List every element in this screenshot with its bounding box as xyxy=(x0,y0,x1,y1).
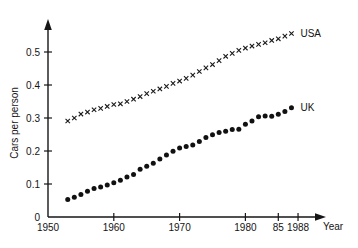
data-point xyxy=(282,109,287,114)
data-point xyxy=(177,146,182,151)
data-point xyxy=(118,102,122,106)
x-tick-label: 1988 xyxy=(287,222,310,233)
data-point xyxy=(171,149,176,154)
data-point xyxy=(138,167,143,172)
data-point xyxy=(190,143,195,148)
data-point xyxy=(157,156,162,161)
data-point xyxy=(98,106,102,110)
x-tick-label: 85 xyxy=(273,222,285,233)
data-point xyxy=(184,144,189,149)
data-point xyxy=(131,97,135,101)
data-point xyxy=(210,132,215,137)
data-point xyxy=(144,164,149,169)
y-tick-label: 0.1 xyxy=(26,179,40,190)
x-tick-label: 1980 xyxy=(234,222,257,233)
data-point xyxy=(151,161,156,166)
data-point xyxy=(204,66,208,70)
data-point xyxy=(158,87,162,91)
data-point xyxy=(65,197,70,202)
data-point xyxy=(85,110,89,114)
data-point xyxy=(92,108,96,112)
y-tick-label: 0.3 xyxy=(26,113,40,124)
data-point xyxy=(237,48,241,52)
data-point xyxy=(276,37,280,41)
data-point xyxy=(72,195,77,200)
data-point xyxy=(111,180,116,185)
series-usa-markers xyxy=(66,31,294,123)
x-tick-label: 1950 xyxy=(37,222,60,233)
x-axis-ticks: 1950196019701980851988 xyxy=(37,213,310,233)
data-point xyxy=(197,69,201,73)
data-point xyxy=(92,186,97,191)
y-tick-label: 0 xyxy=(34,212,40,223)
y-tick-label: 0.4 xyxy=(26,80,40,91)
series-label-usa: USA xyxy=(300,28,321,39)
series-label-uk: UK xyxy=(300,102,314,113)
data-point xyxy=(217,130,222,135)
data-point xyxy=(263,114,268,119)
data-point xyxy=(66,119,70,123)
cars-per-person-scatter-chart: 00.10.20.30.40.5 1950196019701980851988 … xyxy=(0,0,358,248)
data-point xyxy=(164,84,168,88)
x-axis-arrowhead xyxy=(315,213,326,221)
data-point xyxy=(230,51,234,55)
data-point xyxy=(243,46,247,50)
data-point xyxy=(85,189,90,194)
data-point xyxy=(223,54,227,58)
data-point xyxy=(105,182,110,187)
data-point xyxy=(118,178,123,183)
data-point xyxy=(78,192,83,197)
data-point xyxy=(191,73,195,77)
y-tick-label: 0.5 xyxy=(26,47,40,58)
data-series-group xyxy=(65,31,294,202)
data-point xyxy=(164,152,169,157)
data-point xyxy=(230,127,235,132)
chart-container: 00.10.20.30.40.5 1950196019701980851988 … xyxy=(0,0,358,248)
data-point xyxy=(243,122,248,127)
data-point xyxy=(79,112,83,116)
x-axis-title: Year xyxy=(323,221,344,232)
data-point xyxy=(249,118,254,123)
data-point xyxy=(250,44,254,48)
data-point xyxy=(145,91,149,95)
data-point xyxy=(131,172,136,177)
x-tick-label: 1970 xyxy=(168,222,191,233)
data-point xyxy=(125,99,129,103)
data-point xyxy=(112,102,116,106)
y-axis-title: Cars per person xyxy=(9,87,20,159)
data-point xyxy=(256,42,260,46)
data-point xyxy=(269,114,274,119)
data-point xyxy=(197,139,202,144)
data-point xyxy=(236,127,241,132)
y-tick-label: 0.2 xyxy=(26,146,40,157)
data-point xyxy=(151,89,155,93)
data-point xyxy=(217,58,221,62)
data-point xyxy=(256,114,261,119)
data-point xyxy=(124,175,129,180)
data-point xyxy=(98,184,103,189)
data-point xyxy=(177,79,181,83)
data-point xyxy=(289,31,293,35)
series-uk-markers xyxy=(65,105,294,202)
data-point xyxy=(283,34,287,38)
data-point xyxy=(276,112,281,117)
y-axis-arrowhead xyxy=(44,19,52,30)
data-point xyxy=(289,105,294,110)
data-point xyxy=(171,81,175,85)
data-point xyxy=(210,62,214,66)
data-point xyxy=(72,116,76,120)
data-point xyxy=(184,76,188,80)
data-point xyxy=(263,41,267,45)
data-point xyxy=(105,104,109,108)
data-point xyxy=(270,38,274,42)
data-point xyxy=(203,135,208,140)
x-tick-label: 1960 xyxy=(103,222,126,233)
data-point xyxy=(138,94,142,98)
data-point xyxy=(223,129,228,134)
